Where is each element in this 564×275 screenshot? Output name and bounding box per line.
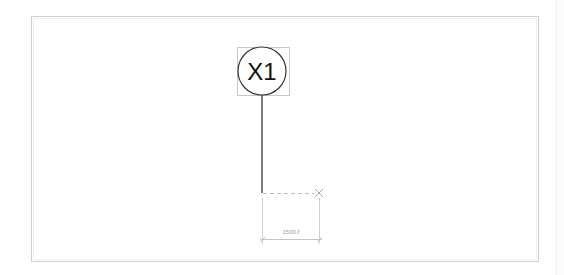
x-cross-icon[interactable] bbox=[315, 189, 323, 197]
grid-label[interactable]: X1 bbox=[247, 58, 276, 85]
view-crop-frame-shadow bbox=[34, 19, 537, 260]
grid-head[interactable]: X1 bbox=[238, 47, 286, 95]
view-crop-frame[interactable] bbox=[32, 17, 539, 262]
right-edge-strip bbox=[556, 0, 564, 275]
dimension-value[interactable]: 1500.ℓ bbox=[283, 229, 300, 235]
